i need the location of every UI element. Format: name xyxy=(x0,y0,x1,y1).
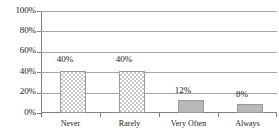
y-tick-label-60: 60% xyxy=(0,46,36,55)
y-tick-label-80: 80% xyxy=(0,26,36,35)
x-label-very-often: Very Often xyxy=(159,119,218,129)
x-label-always: Always xyxy=(218,119,277,129)
y-axis-labels: 100% 80% 60% 40% 20% 0% xyxy=(0,0,36,138)
bar-chart: 100% 80% 60% 40% 20% 0% 40% 40% 12% 8% xyxy=(0,0,279,138)
y-tick-label-20: 20% xyxy=(0,87,36,96)
data-label-never: 40% xyxy=(47,54,83,64)
y-tick-label-100: 100% xyxy=(0,6,36,15)
bar-always[interactable] xyxy=(237,104,263,113)
y-tick-label-0: 0% xyxy=(0,108,36,117)
data-label-very-often: 12% xyxy=(165,85,201,95)
bar-rarely[interactable] xyxy=(119,71,145,113)
bar-never[interactable] xyxy=(60,71,86,113)
data-label-rarely: 40% xyxy=(106,54,142,64)
x-label-rarely: Rarely xyxy=(100,119,159,129)
bar-very-often[interactable] xyxy=(178,100,204,113)
x-axis-labels: Never Rarely Very Often Always xyxy=(41,119,277,133)
data-label-always: 8% xyxy=(224,89,260,99)
x-label-never: Never xyxy=(41,119,100,129)
y-tick-label-40: 40% xyxy=(0,67,36,76)
